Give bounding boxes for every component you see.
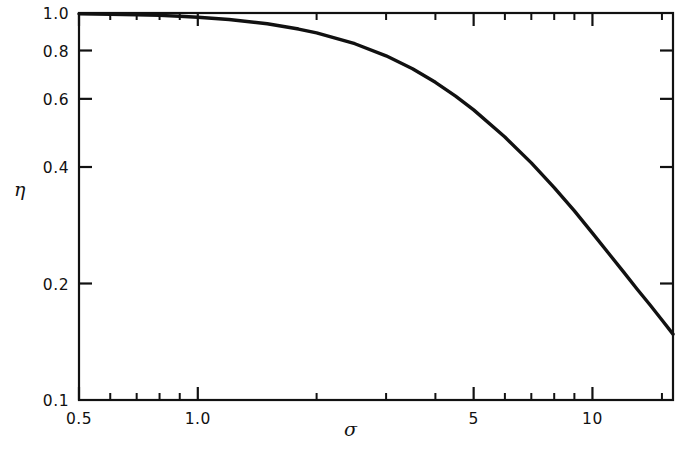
y-axis-label: η	[14, 178, 25, 200]
y-tick-label: 0.2	[43, 276, 69, 294]
axis-ticks	[79, 13, 673, 400]
series-line-efficiency	[79, 14, 673, 334]
chart-canvas: 0.51.05101.00.80.60.40.20.1	[0, 0, 675, 453]
x-tick-label: 5	[468, 410, 478, 428]
y-tick-label: 0.4	[43, 159, 69, 177]
axes-frame	[79, 13, 673, 400]
x-tick-label: 0.5	[66, 410, 92, 428]
y-tick-label: 0.6	[43, 91, 69, 109]
x-tick-label: 10	[582, 410, 603, 428]
y-tick-label: 1.0	[43, 5, 69, 23]
y-tick-label: 0.8	[43, 43, 69, 61]
data-series	[79, 14, 673, 334]
x-axis-label: σ	[344, 418, 357, 440]
axis-tick-labels: 0.51.05101.00.80.60.40.20.1	[43, 5, 603, 428]
figure-panel: 0.51.05101.00.80.60.40.20.1 η σ	[0, 0, 675, 453]
y-tick-label: 0.1	[43, 392, 69, 410]
x-tick-label: 1.0	[185, 410, 211, 428]
